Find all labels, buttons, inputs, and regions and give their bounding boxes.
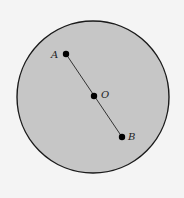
point-o	[91, 93, 97, 99]
point-a	[63, 51, 69, 57]
point-b	[119, 134, 125, 140]
label-a: A	[50, 49, 58, 60]
label-b: B	[127, 131, 135, 142]
circle-diagram: A O B	[0, 0, 184, 198]
label-o: O	[101, 89, 109, 100]
